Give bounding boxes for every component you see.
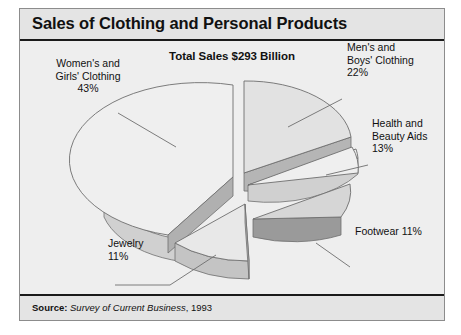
slice-label-line1: Health and [372, 117, 423, 129]
source-line: Source: Survey of Current Business, 1993 [32, 302, 212, 313]
title-band: Sales of Clothing and Personal Products [20, 9, 444, 41]
leader-line-footwear [316, 243, 350, 267]
slice-label-womens-girls-clothing: Women's and Girls' Clothing 43% [34, 57, 142, 95]
slice-label-percent: 11% [108, 250, 144, 263]
slice-label-line2: Beauty Aids [372, 130, 427, 142]
slice-label-line1: Footwear 11% [355, 225, 422, 237]
source-band: Source: Survey of Current Business, 1993 [20, 294, 444, 320]
source-label: Source: [32, 302, 67, 313]
slice-label-health-beauty-aids: Health and Beauty Aids 13% [372, 117, 427, 155]
source-year: , 1993 [186, 302, 212, 313]
slice-label-line1: Men's and [347, 41, 395, 53]
slice-label-percent: 13% [372, 142, 427, 155]
slice-label-jewelry: Jewelry 11% [108, 237, 144, 262]
chart-figure: Sales of Clothing and Personal Products … [19, 8, 445, 321]
slice-label-line1: Women's and [56, 57, 120, 69]
slice-label-line2: Girls' Clothing [55, 70, 120, 82]
slice-label-line2: Boys' Clothing [347, 54, 414, 66]
slice-label-line1: Jewelry [108, 237, 144, 249]
source-publication: Survey of Current Business [70, 302, 186, 313]
slice-label-percent: 22% [347, 66, 414, 79]
slice-label-footwear: Footwear 11% [355, 225, 422, 238]
page-title: Sales of Clothing and Personal Products [32, 14, 347, 33]
slice-label-percent: 43% [34, 82, 142, 95]
slice-label-mens-boys-clothing: Men's and Boys' Clothing 22% [347, 41, 414, 79]
